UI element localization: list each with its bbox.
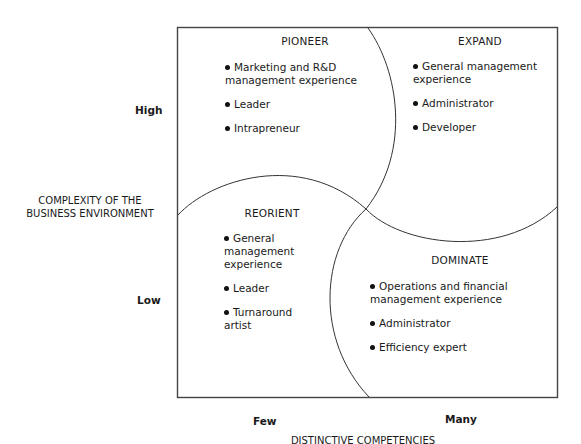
bullet-icon (370, 345, 375, 350)
bullet-icon (225, 65, 230, 70)
expand-title: EXPAND (440, 35, 520, 47)
bullet-icon (225, 126, 230, 131)
y-axis-low-label: Low (137, 294, 161, 306)
expand-item: General management experience (413, 60, 558, 86)
expand-quadrant: EXPAND (440, 35, 520, 47)
arc-dominate-left (330, 209, 369, 397)
arc-expand-bottom (366, 207, 557, 242)
bullet-icon (225, 102, 230, 107)
pioneer-item: Intrapreneur (225, 122, 365, 135)
dominate-quadrant: DOMINATE (415, 254, 505, 266)
bullet-icon (413, 64, 418, 69)
dominate-list: Operations and financial management expe… (370, 280, 550, 354)
pioneer-item: Marketing and R&D management experience (225, 61, 365, 87)
bullet-icon (370, 284, 375, 289)
reorient-quadrant: REORIENT (237, 207, 307, 219)
bullet-icon (413, 101, 418, 106)
expand-item: Administrator (413, 97, 558, 110)
dominate-title: DOMINATE (415, 254, 505, 266)
dominate-item: Administrator (370, 317, 550, 330)
y-axis-high-label: High (135, 104, 162, 116)
pioneer-title: PIONEER (250, 35, 360, 47)
pioneer-quadrant: PIONEER (250, 35, 360, 47)
reorient-item: Turnaround artist (224, 306, 334, 332)
reorient-list: General management experience Leader Tur… (224, 232, 334, 332)
reorient-item: General management experience (224, 232, 334, 271)
dominate-item: Efficiency expert (370, 341, 550, 354)
reorient-title: REORIENT (237, 207, 307, 219)
bullet-icon (413, 125, 418, 130)
bullet-icon (224, 236, 229, 241)
x-axis-title: DISTINCTIVE COMPETENCIES (288, 434, 438, 444)
pioneer-item: Leader (225, 98, 365, 111)
y-axis-title: COMPLEXITY OF THE BUSINESS ENVIRONMENT (0, 194, 180, 220)
bullet-icon (224, 286, 229, 291)
x-axis-many-label: Many (445, 413, 477, 425)
arc-pioneer-expand (366, 28, 396, 209)
bullet-icon (224, 310, 229, 315)
pioneer-list: Marketing and R&D management experience … (225, 61, 365, 135)
expand-item: Developer (413, 121, 558, 134)
expand-list: General management experience Administra… (413, 60, 558, 134)
reorient-item: Leader (224, 282, 334, 295)
dominate-item: Operations and financial management expe… (370, 280, 550, 306)
bullet-icon (370, 321, 375, 326)
x-axis-few-label: Few (253, 415, 277, 427)
